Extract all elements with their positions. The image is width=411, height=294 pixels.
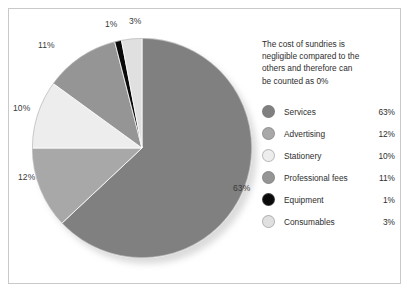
chart-page: 12% 10% 11% 1% 3% 63% The cost of sundri… [0, 0, 411, 294]
legend-value: 11% [375, 173, 395, 183]
legend-row[interactable]: Consumables3% [262, 211, 395, 233]
pie-label-professional-fees: 11% [38, 40, 55, 50]
legend-swatch-icon [262, 149, 275, 162]
legend-row[interactable]: Advertising12% [262, 123, 395, 145]
legend-row[interactable]: Professional fees11% [262, 167, 395, 189]
legend-value: 63% [375, 107, 395, 117]
legend-swatch-icon [262, 105, 275, 118]
annotation-line-1: The cost of sundries is [262, 38, 390, 50]
annotation-text: The cost of sundries is negligible compa… [262, 38, 390, 87]
legend-value: 3% [375, 217, 395, 227]
legend-swatch-icon [262, 127, 275, 140]
legend-label: Stationery [275, 151, 375, 161]
legend-value: 10% [375, 151, 395, 161]
annotation-line-3: others and therefore can [262, 62, 390, 74]
pie-label-stationery: 10% [13, 103, 30, 113]
annotation-line-4: be counted as 0% [262, 75, 390, 87]
legend: Services63%Advertising12%Stationery10%Pr… [262, 101, 395, 233]
pie-slices [32, 38, 252, 258]
legend-label: Professional fees [275, 173, 375, 183]
pie-label-consumables: 3% [129, 16, 142, 26]
legend-label: Services [275, 107, 375, 117]
legend-label: Equipment [275, 195, 375, 205]
pie-label-services: 63% [233, 183, 250, 193]
legend-value: 1% [375, 195, 395, 205]
pie-label-equipment: 1% [105, 19, 118, 29]
legend-row[interactable]: Equipment1% [262, 189, 395, 211]
legend-row[interactable]: Services63% [262, 101, 395, 123]
legend-row[interactable]: Stationery10% [262, 145, 395, 167]
legend-swatch-icon [262, 215, 275, 228]
pie-chart [32, 38, 252, 258]
legend-value: 12% [375, 129, 395, 139]
annotation-line-2: negligible compared to the [262, 50, 390, 62]
legend-swatch-icon [262, 193, 275, 206]
pie-label-advertising: 12% [18, 172, 35, 182]
legend-label: Advertising [275, 129, 375, 139]
legend-swatch-icon [262, 171, 275, 184]
legend-label: Consumables [275, 217, 375, 227]
right-panel: The cost of sundries is negligible compa… [262, 38, 395, 233]
